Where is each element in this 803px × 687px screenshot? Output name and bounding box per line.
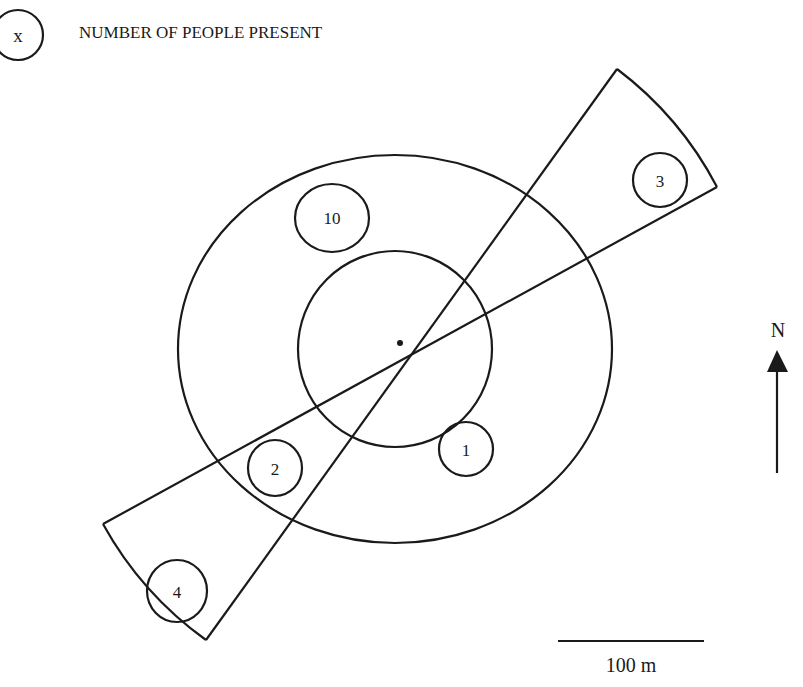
group-count: 2: [271, 460, 280, 479]
north-arrow: N: [767, 319, 788, 473]
inner-zone-circle: [298, 251, 492, 447]
sector-arc-northeast: [617, 69, 717, 187]
group-marker-3: 3: [633, 153, 687, 207]
outer-zone-circle: [178, 155, 612, 543]
sector-edge-line-2: [103, 187, 717, 524]
scale-bar: 100 m: [558, 641, 704, 676]
group-marker-2: 2: [248, 440, 302, 496]
sector-arc-southwest: [103, 524, 206, 640]
legend-symbol: x: [13, 25, 23, 46]
group-marker-1: 1: [439, 422, 493, 476]
group-count: 4: [173, 583, 182, 602]
north-arrow-icon: [767, 350, 788, 372]
group-count: 3: [656, 172, 665, 191]
center-point: [397, 340, 403, 346]
north-label: N: [771, 319, 785, 341]
group-count: 1: [462, 441, 471, 460]
legend: x NUMBER OF PEOPLE PRESENT: [0, 10, 323, 60]
group-marker-4: 4: [147, 560, 207, 622]
site-diagram: x NUMBER OF PEOPLE PRESENT 10 1 2 3 4 N: [0, 0, 803, 687]
group-count: 10: [324, 209, 341, 228]
scale-bar-label: 100 m: [606, 654, 657, 676]
group-marker-10: 10: [295, 184, 369, 252]
legend-text: NUMBER OF PEOPLE PRESENT: [79, 23, 323, 42]
